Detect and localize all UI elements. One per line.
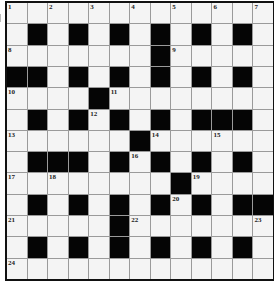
grid-cell[interactable] bbox=[192, 3, 212, 23]
grid-cell[interactable] bbox=[130, 67, 150, 87]
grid-cell[interactable]: 11 bbox=[110, 88, 130, 108]
grid-cell[interactable]: 4 bbox=[130, 3, 150, 23]
grid-cell[interactable] bbox=[233, 173, 253, 193]
grid-cell[interactable] bbox=[89, 259, 109, 279]
grid-cell[interactable] bbox=[28, 3, 48, 23]
grid-cell[interactable]: 7 bbox=[253, 3, 273, 23]
grid-cell[interactable] bbox=[48, 237, 68, 257]
grid-cell[interactable] bbox=[253, 152, 273, 172]
grid-cell[interactable] bbox=[89, 216, 109, 236]
grid-cell[interactable]: 17 bbox=[7, 173, 27, 193]
grid-cell[interactable] bbox=[233, 259, 253, 279]
grid-cell[interactable] bbox=[151, 216, 171, 236]
grid-cell[interactable] bbox=[253, 24, 273, 44]
grid-cell[interactable]: 2 bbox=[48, 3, 68, 23]
grid-cell[interactable] bbox=[233, 131, 253, 151]
grid-cell[interactable] bbox=[69, 259, 89, 279]
grid-cell[interactable] bbox=[48, 195, 68, 215]
grid-cell[interactable]: 15 bbox=[212, 131, 232, 151]
grid-cell[interactable] bbox=[7, 152, 27, 172]
grid-cell[interactable] bbox=[110, 259, 130, 279]
grid-cell[interactable] bbox=[233, 46, 253, 66]
grid-cell[interactable] bbox=[192, 88, 212, 108]
grid-cell[interactable]: 22 bbox=[130, 216, 150, 236]
grid-cell[interactable]: 13 bbox=[7, 131, 27, 151]
grid-cell[interactable] bbox=[69, 46, 89, 66]
grid-cell[interactable] bbox=[212, 259, 232, 279]
grid-cell[interactable] bbox=[192, 131, 212, 151]
grid-cell[interactable]: 18 bbox=[48, 173, 68, 193]
grid-cell[interactable] bbox=[69, 173, 89, 193]
grid-cell[interactable] bbox=[212, 237, 232, 257]
grid-cell[interactable]: 1 bbox=[7, 3, 27, 23]
grid-cell[interactable] bbox=[192, 216, 212, 236]
grid-cell[interactable] bbox=[171, 237, 191, 257]
grid-cell[interactable] bbox=[48, 216, 68, 236]
grid-cell[interactable] bbox=[253, 173, 273, 193]
grid-cell[interactable] bbox=[110, 3, 130, 23]
grid-cell[interactable] bbox=[89, 131, 109, 151]
grid-cell[interactable] bbox=[253, 259, 273, 279]
grid-cell[interactable]: 19 bbox=[192, 173, 212, 193]
grid-cell[interactable] bbox=[212, 67, 232, 87]
grid-cell[interactable] bbox=[89, 67, 109, 87]
grid-cell[interactable] bbox=[233, 216, 253, 236]
grid-cell[interactable] bbox=[212, 195, 232, 215]
grid-cell[interactable] bbox=[171, 152, 191, 172]
grid-cell[interactable] bbox=[110, 46, 130, 66]
grid-cell[interactable] bbox=[151, 173, 171, 193]
grid-cell[interactable] bbox=[69, 88, 89, 108]
grid-cell[interactable] bbox=[233, 88, 253, 108]
grid-cell[interactable] bbox=[171, 67, 191, 87]
grid-cell[interactable] bbox=[89, 237, 109, 257]
grid-cell[interactable] bbox=[130, 173, 150, 193]
grid-cell[interactable] bbox=[171, 24, 191, 44]
grid-cell[interactable] bbox=[192, 259, 212, 279]
grid-cell[interactable] bbox=[130, 110, 150, 130]
grid-cell[interactable]: 5 bbox=[171, 3, 191, 23]
grid-cell[interactable]: 14 bbox=[151, 131, 171, 151]
grid-cell[interactable] bbox=[253, 46, 273, 66]
grid-cell[interactable] bbox=[253, 131, 273, 151]
grid-cell[interactable]: 8 bbox=[7, 46, 27, 66]
grid-cell[interactable] bbox=[110, 173, 130, 193]
grid-cell[interactable] bbox=[89, 46, 109, 66]
grid-cell[interactable] bbox=[48, 88, 68, 108]
grid-cell[interactable] bbox=[48, 110, 68, 130]
grid-cell[interactable] bbox=[28, 216, 48, 236]
grid-cell[interactable] bbox=[110, 131, 130, 151]
grid-cell[interactable] bbox=[253, 110, 273, 130]
grid-cell[interactable] bbox=[151, 88, 171, 108]
grid-cell[interactable] bbox=[28, 131, 48, 151]
grid-cell[interactable] bbox=[48, 131, 68, 151]
grid-cell[interactable] bbox=[171, 259, 191, 279]
grid-cell[interactable] bbox=[130, 237, 150, 257]
grid-cell[interactable] bbox=[48, 46, 68, 66]
grid-cell[interactable] bbox=[89, 173, 109, 193]
grid-cell[interactable] bbox=[130, 195, 150, 215]
grid-cell[interactable] bbox=[130, 259, 150, 279]
grid-cell[interactable]: 20 bbox=[171, 195, 191, 215]
grid-cell[interactable]: 21 bbox=[7, 216, 27, 236]
grid-cell[interactable]: 6 bbox=[212, 3, 232, 23]
grid-cell[interactable] bbox=[233, 3, 253, 23]
grid-cell[interactable] bbox=[28, 173, 48, 193]
grid-cell[interactable] bbox=[69, 131, 89, 151]
grid-cell[interactable]: 10 bbox=[7, 88, 27, 108]
grid-cell[interactable] bbox=[212, 216, 232, 236]
grid-cell[interactable] bbox=[253, 88, 273, 108]
grid-cell[interactable] bbox=[130, 88, 150, 108]
grid-cell[interactable] bbox=[171, 131, 191, 151]
grid-cell[interactable] bbox=[69, 3, 89, 23]
grid-cell[interactable] bbox=[28, 46, 48, 66]
grid-cell[interactable]: 3 bbox=[89, 3, 109, 23]
grid-cell[interactable] bbox=[212, 24, 232, 44]
grid-cell[interactable] bbox=[253, 237, 273, 257]
grid-cell[interactable]: 16 bbox=[130, 152, 150, 172]
grid-cell[interactable] bbox=[28, 259, 48, 279]
grid-cell[interactable] bbox=[171, 216, 191, 236]
grid-cell[interactable] bbox=[212, 173, 232, 193]
grid-cell[interactable] bbox=[48, 259, 68, 279]
grid-cell[interactable] bbox=[171, 110, 191, 130]
grid-cell[interactable] bbox=[48, 67, 68, 87]
